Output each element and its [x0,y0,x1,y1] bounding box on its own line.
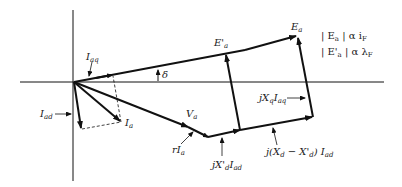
jxd-diff-pointer [273,128,277,145]
label-ia: Ia [124,117,133,130]
ria-pointer [181,132,193,144]
dashed-projection-1 [82,122,121,129]
iad-phasor [74,82,81,128]
ea-phasor [245,36,296,50]
ea-prime-riser [226,55,240,130]
label-ea-prime: E'a [213,37,228,50]
ia-phasor [74,82,120,121]
label-jxdp-iad: jX'dIad [210,159,243,172]
label-va: Va [186,108,197,121]
phasor-diagram: Ea E'a Iaq δ Iad Ia Va rIa jX'dIad jXqIa… [0,0,402,187]
label-ea: Ea [290,21,303,34]
label-iaq: Iaq [85,51,99,64]
relation-ea-if: | Ea | α iF [321,30,367,43]
iaq-pointer [89,62,92,76]
label-ria: rIa [172,144,185,157]
label-delta: δ [162,69,168,80]
va-phasor [74,82,188,127]
jxd-diff-iad-phasor [240,117,312,130]
label-jxq-iaq: jXqIaq [257,92,287,105]
relation-ea-prime-lambda: | E'a | α λF [321,46,373,59]
ria-phasor [188,127,208,137]
jxdp-iad-phasor [208,130,240,137]
jxq-iaq-phasor [298,38,313,117]
label-jxd-diff-iad: j(Xd − X'd) Iad [264,146,334,159]
label-iad: Iad [39,108,53,121]
